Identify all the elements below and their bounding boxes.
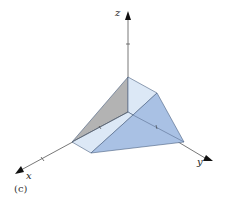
y-axis-label: y	[197, 156, 203, 167]
y-axis-arrow-icon	[203, 155, 213, 161]
solid	[72, 77, 184, 153]
x-axis-label: x	[26, 170, 32, 181]
x-axis-arrow-icon	[15, 166, 24, 174]
figure-caption: (c)	[14, 183, 27, 194]
z-axis-arrow-icon	[125, 11, 131, 20]
3d-solid-diagram	[0, 0, 227, 207]
z-axis-label: z	[115, 7, 120, 18]
